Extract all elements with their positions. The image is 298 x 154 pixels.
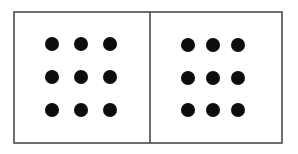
dot-marker	[181, 103, 195, 117]
figure-canvas	[0, 0, 298, 154]
dot-marker	[231, 71, 245, 85]
dot-marker	[103, 37, 117, 51]
dot-marker	[181, 38, 195, 52]
dot-marker	[231, 103, 245, 117]
dot-array-figure	[0, 0, 298, 154]
dot-marker	[181, 71, 195, 85]
dot-marker	[74, 103, 88, 117]
dot-marker	[103, 103, 117, 117]
dot-marker	[45, 37, 59, 51]
dot-marker	[206, 103, 220, 117]
right-panel-dot-group	[181, 38, 245, 117]
dot-marker	[231, 38, 245, 52]
left-panel-dot-group	[45, 37, 117, 117]
dot-marker	[74, 37, 88, 51]
dot-marker	[206, 71, 220, 85]
dot-marker	[206, 38, 220, 52]
dot-marker	[103, 70, 117, 84]
dot-marker	[45, 103, 59, 117]
dot-marker	[74, 70, 88, 84]
dot-marker	[45, 70, 59, 84]
